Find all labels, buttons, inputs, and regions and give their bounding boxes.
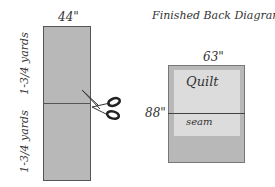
top-length-label: 1-3/4 yards (18, 29, 31, 99)
seam-line (168, 113, 245, 114)
diagram-title: Finished Back Diagram (152, 9, 275, 22)
bottom-length-label: 1-3/4 yards (18, 107, 31, 177)
finished-height-label: 88" (145, 106, 166, 120)
fabric-width-label: 44" (58, 10, 79, 24)
scissors-icon (78, 85, 128, 125)
seam-label: seam (186, 116, 213, 127)
quilt-label: Quilt (186, 74, 219, 89)
finished-width-label: 63" (203, 50, 224, 64)
